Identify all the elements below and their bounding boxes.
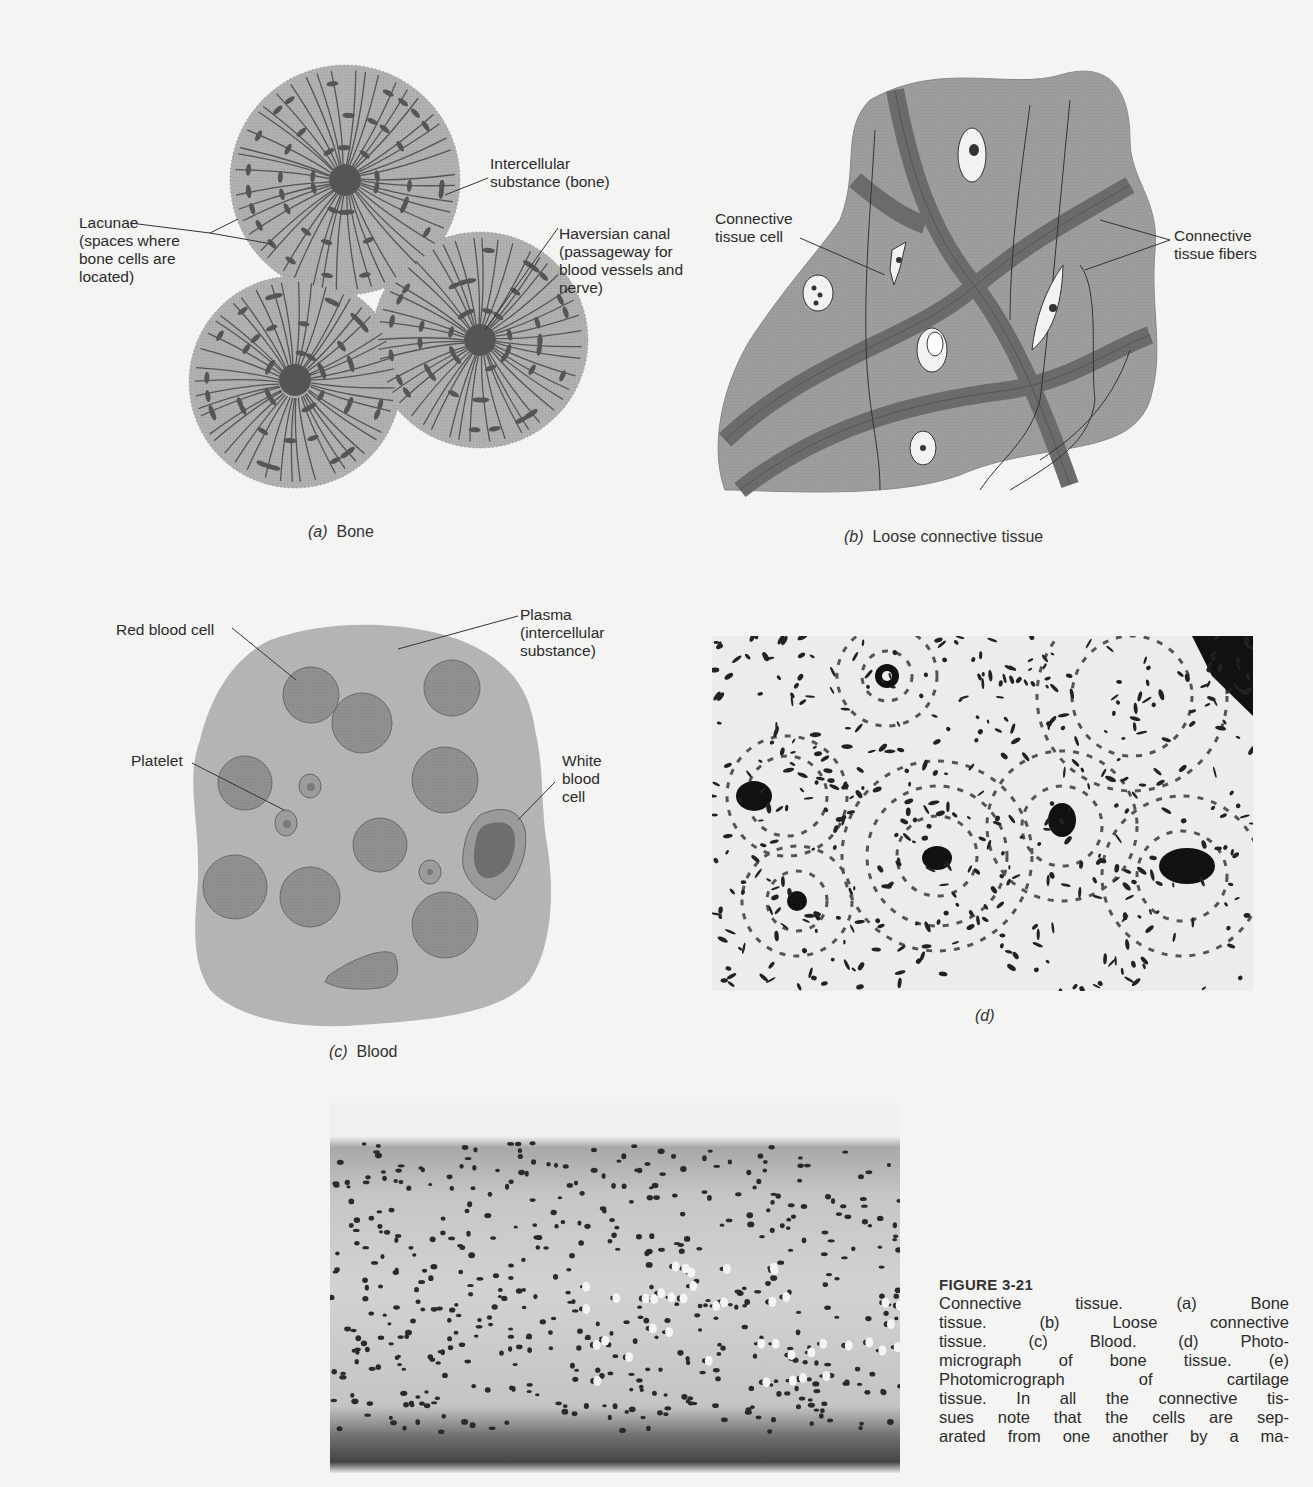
blood-diagram — [180, 620, 580, 1040]
haversian-canal — [279, 364, 311, 396]
caption-c-letter: (c) — [329, 1043, 348, 1060]
photomicrograph-bone — [712, 636, 1253, 991]
caption-d: (d) — [975, 1007, 995, 1025]
caption-line: sues note that the cells are sep- — [939, 1408, 1289, 1427]
label-red-blood-cell: Red blood cell — [116, 621, 214, 639]
caption-line: Connective tissue. (a) Bone — [939, 1294, 1289, 1313]
figure-number: FIGURE 3-21 — [939, 1276, 1033, 1293]
caption-line: Photomicrograph of cartilage — [939, 1370, 1289, 1389]
caption-b: (b) Loose connective tissue — [844, 528, 1043, 546]
caption-d-letter: (d) — [975, 1007, 995, 1024]
caption-a: (a) Bone — [308, 523, 374, 541]
caption-line: micrograph of bone tissue. (e) — [939, 1351, 1289, 1370]
label-connective-tissue-fibers: Connective tissue fibers — [1174, 227, 1257, 263]
caption-line: tissue. In all the connective tis- — [939, 1389, 1289, 1408]
label-plasma: Plasma (intercellular substance) — [520, 606, 604, 660]
photomicrograph-cartilage — [330, 1103, 900, 1473]
caption-c: (c) Blood — [329, 1043, 397, 1061]
label-haversian-canal: Haversian canal (passageway for blood ve… — [559, 225, 683, 297]
caption-a-title: Bone — [336, 523, 373, 540]
label-white-blood-cell: White blood cell — [562, 752, 602, 806]
label-platelet: Platelet — [131, 752, 183, 770]
loose-connective-diagram — [710, 20, 1170, 500]
figure-caption: Connective tissue. (a) Bone tissue. (b) … — [939, 1294, 1289, 1446]
caption-line: tissue. (b) Loose connective — [939, 1313, 1289, 1332]
bone-diagram — [185, 0, 605, 500]
label-intercellular-substance: Intercellular substance (bone) — [490, 155, 610, 191]
label-connective-tissue-cell: Connective tissue cell — [715, 210, 793, 246]
caption-a-letter: (a) — [308, 523, 328, 540]
caption-b-title: Loose connective tissue — [872, 528, 1043, 545]
caption-line: arated from one another by a ma- — [939, 1427, 1289, 1446]
caption-b-letter: (b) — [844, 528, 864, 545]
label-lacunae: Lacunae (spaces where bone cells are loc… — [79, 214, 180, 286]
haversian-canal — [329, 164, 361, 196]
haversian-canal — [464, 324, 496, 356]
caption-c-title: Blood — [357, 1043, 398, 1060]
caption-line: tissue. (c) Blood. (d) Photo- — [939, 1332, 1289, 1351]
